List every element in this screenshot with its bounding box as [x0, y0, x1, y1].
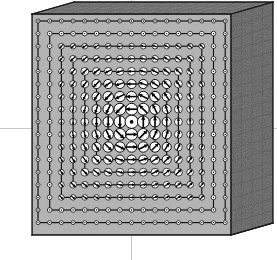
- node-marker: [211, 82, 216, 87]
- node-marker: [150, 155, 159, 164]
- node-marker: [36, 82, 40, 86]
- node-marker: [174, 80, 182, 88]
- node-marker: [59, 81, 65, 87]
- node-marker: [174, 105, 182, 113]
- node-marker: [187, 156, 194, 163]
- node-marker: [162, 92, 171, 101]
- node-marker: [36, 221, 40, 225]
- node-marker: [153, 221, 157, 225]
- node-marker: [115, 91, 125, 101]
- node-marker: [163, 55, 170, 62]
- node-marker: [163, 181, 170, 188]
- node-marker: [140, 195, 146, 201]
- node-marker: [59, 43, 65, 49]
- node-marker: [223, 44, 227, 48]
- node-marker: [176, 195, 182, 201]
- node-marker: [47, 195, 52, 200]
- node-marker: [176, 43, 182, 49]
- node-marker: [47, 82, 52, 87]
- node-marker: [115, 155, 124, 164]
- node-marker: [223, 221, 227, 225]
- node-marker: [174, 168, 182, 176]
- node-marker: [47, 31, 52, 36]
- node-marker: [223, 195, 227, 199]
- node-marker: [223, 132, 227, 136]
- node-marker: [47, 119, 52, 124]
- node-marker: [176, 221, 180, 225]
- node-marker: [106, 31, 111, 36]
- node-marker: [199, 182, 205, 188]
- node-marker: [188, 221, 192, 225]
- node-marker: [140, 55, 147, 62]
- node-marker: [59, 157, 65, 163]
- node-marker: [199, 43, 205, 49]
- node-marker: [36, 95, 40, 99]
- node-marker: [106, 19, 110, 23]
- node-marker: [70, 81, 77, 88]
- node-marker: [138, 142, 148, 152]
- node-marker: [47, 208, 52, 213]
- node-marker: [59, 169, 65, 175]
- node-marker: [211, 132, 216, 137]
- node-marker: [81, 156, 89, 164]
- node-marker: [104, 155, 113, 164]
- node-marker: [59, 56, 65, 62]
- node-marker: [153, 31, 158, 36]
- node-marker: [81, 67, 89, 75]
- node-marker: [103, 142, 113, 152]
- node-marker: [92, 92, 101, 101]
- node-marker: [150, 142, 160, 152]
- node-marker: [94, 43, 100, 49]
- node-marker: [36, 158, 40, 162]
- node-marker: [162, 130, 171, 139]
- node-marker: [127, 155, 136, 164]
- node-marker: [83, 19, 87, 23]
- node-marker: [116, 168, 124, 176]
- node-marker: [150, 129, 160, 139]
- node-marker: [118, 19, 122, 23]
- node-marker: [48, 221, 52, 225]
- node-marker: [187, 169, 194, 176]
- node-marker: [92, 105, 101, 114]
- node-marker: [199, 157, 205, 163]
- node-marker: [36, 32, 40, 36]
- node-marker: [59, 195, 65, 201]
- node-marker: [36, 145, 40, 149]
- node-marker: [139, 79, 148, 88]
- node-marker: [223, 208, 227, 212]
- node-marker: [93, 55, 100, 62]
- node-marker: [93, 181, 100, 188]
- node-marker: [138, 91, 148, 101]
- node-marker: [211, 170, 216, 175]
- node-marker: [163, 168, 171, 176]
- node-marker: [223, 107, 227, 111]
- node-marker: [36, 208, 40, 212]
- node-marker: [223, 120, 227, 124]
- node-marker: [174, 118, 182, 126]
- node-marker: [36, 19, 40, 23]
- node-marker: [150, 104, 160, 114]
- node-marker: [70, 131, 77, 138]
- node-marker: [174, 130, 182, 138]
- node-marker: [128, 168, 136, 176]
- node-marker: [47, 94, 52, 99]
- node-marker: [104, 79, 113, 88]
- node-marker: [126, 91, 136, 101]
- node-marker: [187, 43, 193, 49]
- node-marker: [94, 31, 99, 36]
- node-marker: [211, 145, 216, 150]
- node-marker: [105, 55, 112, 62]
- node-marker: [199, 106, 205, 112]
- node-marker: [153, 208, 158, 213]
- node-marker: [211, 56, 216, 61]
- node-marker: [47, 107, 52, 112]
- node-marker: [176, 19, 180, 23]
- node-marker: [105, 181, 112, 188]
- node-marker: [59, 94, 65, 100]
- node-marker: [199, 69, 205, 75]
- node-marker: [187, 93, 194, 100]
- node-marker: [223, 158, 227, 162]
- node-marker: [223, 57, 227, 61]
- node-marker: [103, 117, 113, 127]
- node-marker: [83, 221, 87, 225]
